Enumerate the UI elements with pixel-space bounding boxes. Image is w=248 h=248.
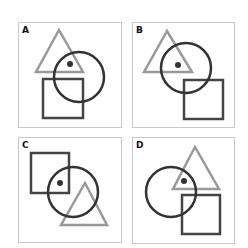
dot-marker-b — [175, 62, 181, 68]
panel-label-a: A — [22, 26, 29, 35]
circle-shape-d — [146, 167, 196, 217]
panel-label-b: B — [136, 26, 143, 35]
dot-marker-a — [67, 61, 73, 67]
panel-label-c: C — [22, 141, 29, 150]
dot-marker-c — [57, 180, 63, 186]
square-shape-a — [43, 79, 83, 118]
figure-canvas — [0, 0, 248, 248]
circle-shape-a — [54, 52, 104, 102]
square-shape-c — [31, 153, 69, 193]
panel-frame-a — [19, 23, 122, 128]
dot-marker-d — [181, 178, 187, 184]
circle-shape-b — [161, 43, 211, 93]
square-shape-d — [182, 195, 220, 234]
panel-label-d: D — [136, 141, 143, 150]
